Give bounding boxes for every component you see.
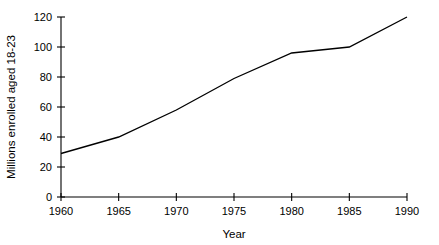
chart-canvas: 020406080100120 196019651970197519801985… bbox=[0, 0, 439, 245]
x-axis-tick-label: 1975 bbox=[222, 205, 246, 217]
y-axis-tick-label: 60 bbox=[40, 101, 52, 113]
y-axis-tick-label: 80 bbox=[40, 71, 52, 83]
x-axis-tick-label: 1990 bbox=[395, 205, 419, 217]
y-axis-tick-label: 0 bbox=[46, 191, 52, 203]
x-axis-tick-label: 1970 bbox=[164, 205, 188, 217]
y-axis-tick-label: 40 bbox=[40, 131, 52, 143]
x-axis-tick-label: 1965 bbox=[106, 205, 130, 217]
y-axis-tick-label: 120 bbox=[34, 11, 52, 23]
y-axis-title: Millions enrolled aged 18-23 bbox=[5, 35, 17, 179]
line-chart: 020406080100120 196019651970197519801985… bbox=[0, 0, 439, 245]
x-axis-title: Year bbox=[222, 228, 245, 240]
x-axis-tick-label: 1980 bbox=[279, 205, 303, 217]
x-axis-tick-label: 1960 bbox=[49, 205, 73, 217]
y-axis-tick-label: 100 bbox=[34, 41, 52, 53]
y-axis-tick-label: 20 bbox=[40, 161, 52, 173]
x-axis-tick-label: 1985 bbox=[337, 205, 361, 217]
